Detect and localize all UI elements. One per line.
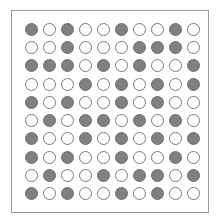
filled-circle-icon: [133, 59, 146, 72]
grid-cell: [130, 57, 148, 75]
filled-circle-icon: [151, 96, 164, 109]
grid-cell: [148, 93, 166, 111]
grid-cell: [148, 111, 166, 129]
grid-cell: [58, 20, 76, 38]
grid-cell: [94, 130, 112, 148]
grid-cell: [130, 166, 148, 184]
empty-circle-icon: [133, 187, 146, 200]
filled-circle-icon: [43, 114, 56, 127]
filled-circle-icon: [25, 59, 38, 72]
filled-circle-icon: [61, 41, 74, 54]
filled-circle-icon: [97, 169, 110, 182]
filled-circle-icon: [25, 23, 38, 36]
empty-circle-icon: [43, 23, 56, 36]
grid-cell: [58, 111, 76, 129]
empty-circle-icon: [169, 169, 182, 182]
empty-circle-icon: [187, 23, 200, 36]
grid-cell: [130, 185, 148, 203]
grid-cell: [58, 38, 76, 56]
empty-circle-icon: [79, 96, 92, 109]
empty-circle-icon: [115, 41, 128, 54]
grid-cell: [184, 166, 202, 184]
grid-cell: [130, 111, 148, 129]
grid-cell: [148, 57, 166, 75]
empty-circle-icon: [151, 151, 164, 164]
grid-cell: [130, 20, 148, 38]
empty-circle-icon: [187, 114, 200, 127]
empty-circle-icon: [43, 187, 56, 200]
grid-cell: [166, 148, 184, 166]
grid-cell: [58, 130, 76, 148]
empty-circle-icon: [115, 59, 128, 72]
empty-circle-icon: [97, 151, 110, 164]
grid-cell: [22, 185, 40, 203]
grid-cell: [40, 93, 58, 111]
grid-cell: [112, 38, 130, 56]
grid-cell: [40, 57, 58, 75]
filled-circle-icon: [25, 151, 38, 164]
grid-cell: [76, 75, 94, 93]
grid-cell: [22, 166, 40, 184]
grid-cell: [40, 130, 58, 148]
grid-cell: [130, 93, 148, 111]
empty-circle-icon: [133, 78, 146, 91]
grid-cell: [130, 130, 148, 148]
empty-circle-icon: [97, 78, 110, 91]
filled-circle-icon: [79, 78, 92, 91]
filled-circle-icon: [61, 23, 74, 36]
filled-circle-icon: [115, 132, 128, 145]
dot-grid-frame: [11, 10, 209, 213]
filled-circle-icon: [25, 96, 38, 109]
grid-cell: [166, 185, 184, 203]
filled-circle-icon: [169, 23, 182, 36]
grid-cell: [184, 148, 202, 166]
grid-cell: [58, 185, 76, 203]
filled-circle-icon: [25, 132, 38, 145]
grid-cell: [76, 185, 94, 203]
empty-circle-icon: [97, 96, 110, 109]
grid-cell: [76, 57, 94, 75]
grid-cell: [58, 93, 76, 111]
empty-circle-icon: [25, 41, 38, 54]
grid-cell: [148, 38, 166, 56]
filled-circle-icon: [169, 151, 182, 164]
filled-circle-icon: [61, 187, 74, 200]
empty-circle-icon: [97, 187, 110, 200]
grid-cell: [112, 130, 130, 148]
filled-circle-icon: [187, 132, 200, 145]
grid-cell: [112, 148, 130, 166]
filled-circle-icon: [61, 59, 74, 72]
grid-cell: [58, 166, 76, 184]
grid-cell: [94, 57, 112, 75]
filled-circle-icon: [187, 169, 200, 182]
grid-cell: [112, 57, 130, 75]
empty-circle-icon: [97, 132, 110, 145]
empty-circle-icon: [151, 59, 164, 72]
grid-cell: [184, 57, 202, 75]
empty-circle-icon: [43, 151, 56, 164]
filled-circle-icon: [43, 169, 56, 182]
grid-cell: [94, 38, 112, 56]
grid-cell: [22, 130, 40, 148]
filled-circle-icon: [115, 96, 128, 109]
grid-cell: [166, 20, 184, 38]
grid-cell: [166, 93, 184, 111]
grid-cell: [184, 75, 202, 93]
empty-circle-icon: [169, 59, 182, 72]
filled-circle-icon: [151, 78, 164, 91]
grid-cell: [76, 148, 94, 166]
grid-cell: [166, 38, 184, 56]
grid-cell: [148, 130, 166, 148]
grid-cell: [40, 185, 58, 203]
filled-circle-icon: [151, 132, 164, 145]
filled-circle-icon: [79, 114, 92, 127]
grid-cell: [76, 38, 94, 56]
filled-circle-icon: [133, 114, 146, 127]
grid-cell: [22, 75, 40, 93]
grid-cell: [148, 166, 166, 184]
empty-circle-icon: [43, 132, 56, 145]
filled-circle-icon: [115, 151, 128, 164]
grid-cell: [112, 111, 130, 129]
empty-circle-icon: [43, 41, 56, 54]
filled-circle-icon: [43, 59, 56, 72]
